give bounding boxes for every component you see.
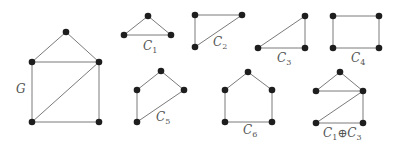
vertex bbox=[29, 59, 36, 66]
edge bbox=[248, 72, 272, 90]
graph-C2: C2 bbox=[192, 12, 246, 51]
edge bbox=[161, 71, 184, 90]
vertex bbox=[96, 119, 103, 126]
vertex bbox=[269, 87, 276, 94]
vertex bbox=[29, 119, 36, 126]
graph-label: C5 bbox=[156, 110, 170, 126]
vertex bbox=[376, 13, 383, 20]
edge bbox=[340, 72, 363, 91]
vertex bbox=[96, 59, 103, 66]
graph-C5: C5 bbox=[134, 68, 188, 126]
edge bbox=[316, 72, 340, 91]
graph-label: C3 bbox=[277, 51, 291, 67]
edge bbox=[32, 32, 66, 62]
vertex bbox=[239, 12, 246, 19]
vertex bbox=[302, 13, 309, 20]
vertex bbox=[145, 13, 152, 20]
vertex bbox=[63, 29, 70, 36]
vertex bbox=[181, 87, 188, 94]
graph-C6: C6 bbox=[222, 69, 276, 139]
graph-label: C1 bbox=[143, 39, 157, 55]
graph-label: G bbox=[16, 82, 26, 96]
graph-C1xorC3: C1⊕C3 bbox=[313, 69, 367, 142]
vertex bbox=[245, 69, 252, 76]
vertex bbox=[121, 32, 128, 39]
graph-G: G bbox=[16, 29, 102, 126]
graph-C3: C3 bbox=[255, 13, 309, 67]
edge bbox=[32, 62, 99, 122]
vertex bbox=[313, 88, 320, 95]
edge bbox=[225, 72, 248, 90]
vertex bbox=[313, 120, 320, 127]
edge bbox=[148, 16, 171, 35]
vertex bbox=[330, 13, 337, 20]
vertex bbox=[360, 88, 367, 95]
vertex bbox=[269, 119, 276, 126]
edge bbox=[316, 91, 363, 123]
graph-label: C6 bbox=[243, 123, 257, 139]
vertex bbox=[255, 45, 262, 52]
edge bbox=[66, 32, 99, 62]
vertex bbox=[158, 68, 165, 75]
graph-label: C2 bbox=[213, 35, 227, 51]
vertex bbox=[330, 45, 337, 52]
vertex bbox=[168, 32, 175, 39]
vertex bbox=[134, 119, 141, 126]
edge bbox=[258, 16, 305, 48]
graph-label: C4 bbox=[351, 51, 365, 67]
vertex bbox=[192, 12, 199, 19]
edge bbox=[124, 16, 148, 35]
graph-C1: C1 bbox=[121, 13, 175, 55]
graph-label: C1⊕C3 bbox=[323, 126, 362, 142]
vertex bbox=[302, 45, 309, 52]
vertex bbox=[222, 87, 229, 94]
vertex bbox=[222, 119, 229, 126]
vertex bbox=[360, 120, 367, 127]
graph-cycle-diagram: GC1C2C3C4C5C6C1⊕C3 bbox=[0, 0, 397, 142]
vertex bbox=[337, 69, 344, 76]
vertex bbox=[192, 44, 199, 51]
diagram-svg: GC1C2C3C4C5C6C1⊕C3 bbox=[0, 0, 397, 142]
vertex bbox=[134, 87, 141, 94]
edge bbox=[137, 71, 161, 90]
graph-C4: C4 bbox=[330, 13, 383, 67]
vertex bbox=[376, 45, 383, 52]
